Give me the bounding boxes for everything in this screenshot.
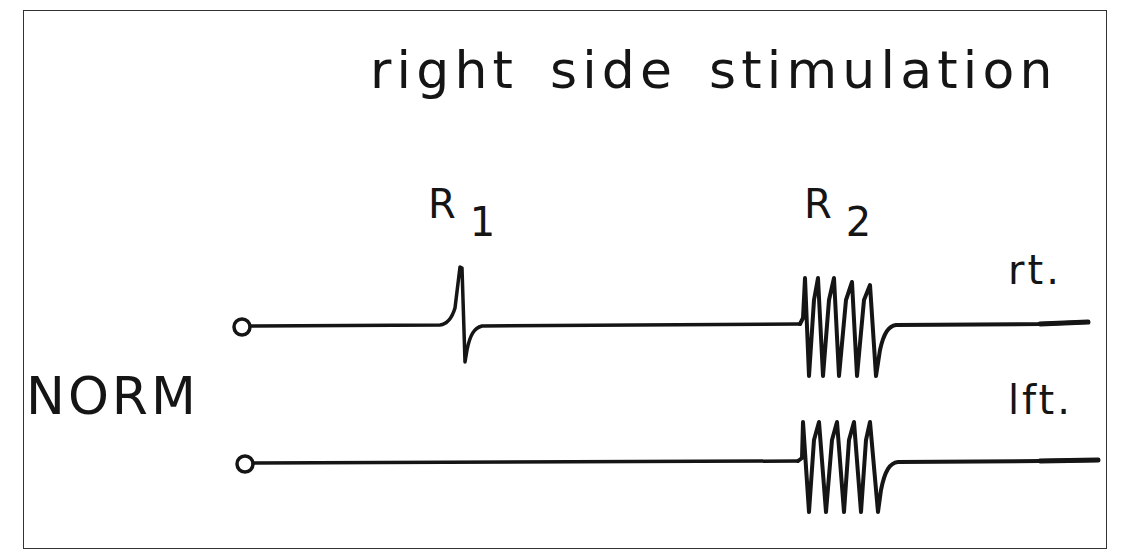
trace-left-end (1040, 460, 1098, 461)
electrode-circle-right (234, 319, 250, 335)
trace-right (234, 267, 1088, 376)
trace-label-left: lft. (1008, 380, 1073, 420)
trace-left-r2-burst (798, 422, 1098, 512)
trace-right-end (1040, 322, 1088, 324)
component-r1-letter: R (428, 181, 456, 227)
component-label-r1: R1 (428, 184, 495, 224)
trace-label-right: rt. (1008, 250, 1062, 290)
trace-left-baseline (253, 461, 798, 463)
electrode-circle-left (237, 456, 253, 472)
trace-left (237, 422, 1098, 512)
component-label-r2: R2 (804, 184, 871, 224)
component-r2-subscript: 2 (846, 199, 871, 245)
trace-right-baseline-r1 (250, 267, 800, 362)
condition-label: NORM (26, 370, 199, 422)
component-r2-letter: R (804, 181, 832, 227)
diagram-title: right side stimulation (370, 44, 1058, 96)
component-r1-subscript: 1 (470, 199, 495, 245)
